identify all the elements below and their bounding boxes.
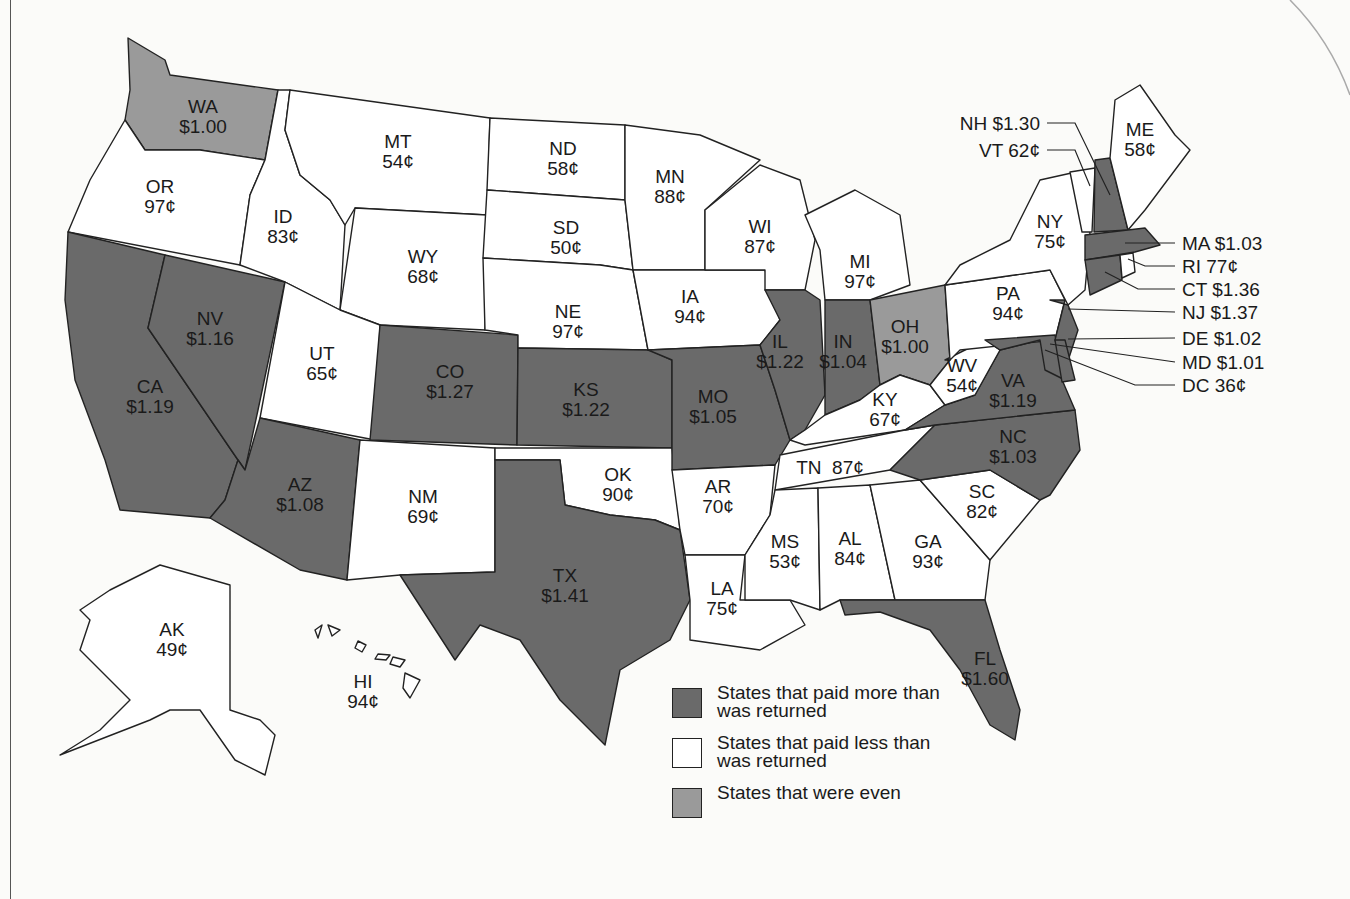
svg-text:GA93¢: GA93¢ bbox=[912, 531, 944, 572]
legend-swatch-more bbox=[672, 688, 702, 718]
legend-swatch-even bbox=[672, 788, 702, 818]
svg-text:KY67¢: KY67¢ bbox=[869, 389, 901, 430]
state-IA[interactable] bbox=[633, 270, 780, 350]
svg-text:SD50¢: SD50¢ bbox=[550, 217, 582, 258]
svg-text:MS53¢: MS53¢ bbox=[769, 531, 801, 572]
legend-item-even: States that were even bbox=[672, 784, 957, 818]
svg-text:OR97¢: OR97¢ bbox=[144, 176, 176, 217]
legend: States that paid more than was returned … bbox=[672, 684, 957, 832]
svg-text:MT54¢: MT54¢ bbox=[382, 131, 414, 172]
svg-text:NE97¢: NE97¢ bbox=[552, 301, 584, 342]
state-AK[interactable] bbox=[60, 565, 275, 775]
svg-text:NY75¢: NY75¢ bbox=[1034, 211, 1066, 252]
state-CT[interactable] bbox=[1085, 255, 1122, 295]
svg-text:SC82¢: SC82¢ bbox=[966, 481, 998, 522]
page-curl bbox=[1290, 0, 1350, 95]
svg-text:CT $1.36: CT $1.36 bbox=[1182, 279, 1260, 300]
svg-text:AK49¢: AK49¢ bbox=[156, 619, 188, 660]
legend-item-more: States that paid more than was returned bbox=[672, 684, 957, 720]
svg-text:NH $1.30: NH $1.30 bbox=[960, 113, 1040, 134]
state-RI[interactable] bbox=[1120, 253, 1135, 278]
svg-text:DC 36¢: DC 36¢ bbox=[1182, 375, 1246, 396]
svg-text:OK90¢: OK90¢ bbox=[602, 464, 634, 505]
svg-text:NJ $1.37: NJ $1.37 bbox=[1182, 302, 1258, 323]
svg-text:MA $1.03: MA $1.03 bbox=[1182, 233, 1262, 254]
svg-text:VT 62¢: VT 62¢ bbox=[979, 140, 1040, 161]
svg-text:TN 87¢: TN 87¢ bbox=[796, 457, 864, 478]
svg-text:HI94¢: HI94¢ bbox=[347, 671, 379, 712]
svg-text:AR70¢: AR70¢ bbox=[702, 476, 734, 517]
svg-text:MN88¢: MN88¢ bbox=[654, 166, 686, 207]
legend-label-even: States that were even bbox=[717, 784, 957, 802]
svg-text:WV54¢: WV54¢ bbox=[946, 355, 978, 396]
svg-text:NM69¢: NM69¢ bbox=[407, 486, 439, 527]
svg-text:DE $1.02: DE $1.02 bbox=[1182, 328, 1261, 349]
legend-label-less: States that paid less than was returned bbox=[717, 734, 957, 770]
svg-text:UT65¢: UT65¢ bbox=[306, 343, 338, 384]
svg-text:WI87¢: WI87¢ bbox=[744, 216, 776, 257]
svg-text:RI 77¢: RI 77¢ bbox=[1182, 256, 1238, 277]
svg-text:ND58¢: ND58¢ bbox=[547, 138, 579, 179]
svg-text:LA75¢: LA75¢ bbox=[706, 578, 738, 619]
svg-text:MD $1.01: MD $1.01 bbox=[1182, 352, 1264, 373]
svg-text:PA94¢: PA94¢ bbox=[992, 283, 1024, 324]
svg-text:WY68¢: WY68¢ bbox=[407, 246, 439, 287]
svg-text:ME58¢: ME58¢ bbox=[1124, 119, 1156, 160]
svg-text:AL84¢: AL84¢ bbox=[834, 528, 866, 569]
legend-item-less: States that paid less than was returned bbox=[672, 734, 957, 770]
legend-label-more: States that paid more than was returned bbox=[717, 684, 957, 720]
legend-swatch-less bbox=[672, 738, 702, 768]
